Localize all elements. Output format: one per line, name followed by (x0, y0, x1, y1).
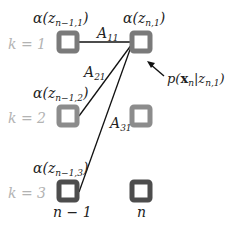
emission-close: ) (220, 71, 225, 86)
emission-bar: |z (194, 71, 205, 86)
k-label-1: k = 1 (8, 37, 46, 51)
emission-x: x (180, 71, 188, 86)
edge-label-A21: A21 (84, 65, 106, 82)
edge-label-text: A (84, 64, 94, 80)
k-label-3: k = 3 (8, 186, 46, 200)
emission-p: p( (167, 71, 180, 86)
emission-label: p(xn|zn,1) (167, 72, 225, 88)
alpha-label-n-k1: α(zn,1) (123, 11, 165, 28)
alpha-close: ) (83, 160, 88, 176)
alpha-text: α(z (33, 85, 55, 101)
alpha-close: ) (83, 85, 88, 101)
node-n-k2 (132, 107, 150, 125)
edge-label-A11: A11 (97, 26, 119, 43)
column-label-n-minus-1: n − 1 (53, 205, 92, 219)
alpha-text: α(z (33, 160, 55, 176)
alpha-text: α(z (123, 10, 145, 26)
alpha-label-n-minus-1-k1: α(zn−1,1) (33, 11, 88, 28)
emission-z-sub: n,1 (205, 78, 219, 88)
edge-label-sub: 31 (120, 123, 131, 133)
alpha-subscript: n−1,1 (55, 18, 83, 28)
alpha-label-n-minus-1-k2: α(zn−1,2) (33, 86, 88, 103)
node-n-k3 (132, 182, 150, 200)
column-label-n: n (137, 205, 146, 219)
alpha-text: α(z (33, 10, 55, 26)
k-label-2: k = 2 (8, 111, 46, 125)
edge-label-text: A (110, 115, 120, 131)
node-n-k1 (132, 33, 150, 51)
node-n-minus-1-k1 (59, 33, 77, 51)
node-n-minus-1-k3 (59, 182, 77, 200)
alpha-close: ) (160, 10, 165, 26)
edge-label-sub: 11 (107, 33, 118, 43)
alpha-subscript: n−1,3 (55, 168, 83, 178)
alpha-subscript: n,1 (145, 18, 159, 28)
edge-label-text: A (97, 25, 107, 41)
alpha-close: ) (83, 10, 88, 26)
edge-label-A31: A31 (110, 116, 132, 133)
alpha-label-n-minus-1-k3: α(zn−1,3) (33, 161, 88, 178)
alpha-subscript: n−1,2 (55, 93, 83, 103)
edge-label-sub: 21 (94, 72, 105, 82)
node-n-minus-1-k2 (59, 107, 77, 125)
